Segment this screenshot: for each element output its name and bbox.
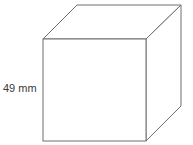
cube-diagram: 49 mm: [0, 0, 193, 145]
dimension-label: 49 mm: [3, 82, 37, 94]
cube-front-face: [43, 39, 146, 141]
